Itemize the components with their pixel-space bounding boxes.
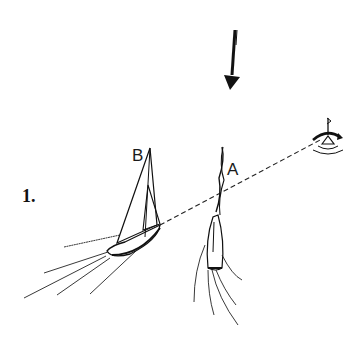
- diagram-drawing: [0, 0, 363, 349]
- line-of-sight: [160, 139, 322, 225]
- figure-number: 1.: [22, 186, 36, 207]
- boat-a-label: A: [227, 160, 238, 180]
- boat-b-label: B: [132, 146, 143, 166]
- diagram-canvas: 1. B A: [0, 0, 363, 349]
- buoy-icon: [313, 118, 343, 154]
- wind-arrow-icon: [224, 30, 240, 90]
- sailboat-b-icon: [24, 148, 160, 298]
